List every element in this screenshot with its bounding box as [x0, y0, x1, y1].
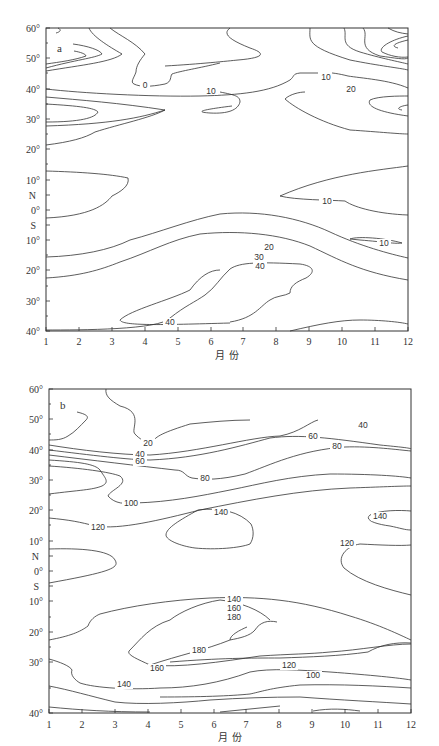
x-tick-label: 6 — [212, 719, 217, 730]
contour-label: 100 — [124, 498, 138, 508]
y-tick-label: 10° — [29, 536, 43, 547]
y-tick-label: N — [32, 551, 39, 562]
contour-label: 120 — [91, 522, 105, 532]
x-tick-label: 9 — [307, 336, 312, 347]
y-tick-label: 20° — [26, 144, 40, 155]
y-tick-label: 10° — [26, 175, 40, 186]
panel-label-a: a — [57, 42, 62, 54]
contour-label: 60 — [308, 431, 318, 441]
contour-labels-b: 20 40 60 40 60 80 80 100 120 140 140 120… — [89, 420, 389, 689]
contour-label: 140 — [373, 511, 387, 521]
y-tick-label: 10° — [29, 596, 43, 607]
contour-label: 20 — [143, 438, 153, 448]
y-tick-label: 40° — [26, 326, 40, 337]
x-tick-label: 11 — [373, 719, 383, 730]
x-tick-label: 8 — [274, 336, 279, 347]
panel-a: a 60° 50° 40° 30° 20° 10° — [26, 23, 413, 361]
x-axis-a: 1 2 3 4 5 6 7 8 9 10 11 12 月 份 — [44, 327, 414, 361]
contour-label: 180 — [192, 645, 206, 655]
contour-label: 10 — [379, 238, 389, 248]
x-tick-label: 5 — [179, 719, 184, 730]
y-tick-label: 60° — [26, 23, 40, 34]
contour-lines-b — [49, 389, 411, 712]
x-tick-label: 3 — [110, 336, 115, 347]
x-tick-label: 10 — [337, 336, 347, 347]
contour-label: 40 — [358, 420, 368, 430]
y-tick-label: 40° — [26, 84, 40, 95]
y-tick-label: 60° — [29, 384, 43, 395]
y-tick-label: 20° — [29, 505, 43, 516]
x-tick-label: 9 — [310, 719, 315, 730]
contour-label: 80 — [332, 441, 342, 451]
figure: a 60° 50° 40° 30° 20° 10° — [0, 0, 439, 746]
y-tick-label: 20° — [26, 265, 40, 276]
contour-label: 0 — [143, 80, 148, 90]
contour-label: 40 — [165, 317, 175, 327]
y-tick-label: 30° — [29, 475, 43, 486]
contour-label: 40 — [255, 261, 265, 271]
x-axis-title: 月 份 — [215, 350, 238, 361]
contour-labels-a: 0 10 10 20 10 10 20 30 40 40 — [140, 72, 391, 327]
x-tick-label: 5 — [176, 336, 181, 347]
y-tick-label: 20° — [29, 627, 43, 638]
contour-label: 10 — [206, 86, 216, 96]
x-tick-label: 1 — [47, 719, 52, 730]
panel-b: b 60° 50° 40° 30° 20° 10° N — [29, 384, 416, 743]
y-tick-label: 40° — [29, 445, 43, 456]
x-tick-label: 10 — [340, 719, 350, 730]
contour-label: 140 — [214, 507, 228, 517]
contour-lines-a — [46, 28, 408, 331]
x-tick-label: 1 — [44, 336, 49, 347]
y-tick-label: 30° — [29, 657, 43, 668]
y-tick-label: 0° — [31, 205, 40, 216]
contour-label: 80 — [200, 473, 210, 483]
x-tick-label: 4 — [146, 719, 151, 730]
y-tick-label: S — [30, 220, 36, 231]
plot-frame-a — [46, 28, 408, 331]
y-tick-label: 50° — [29, 414, 43, 425]
contour-label: 140 — [117, 679, 131, 689]
contour-label: 180 — [227, 612, 241, 622]
contour-label: 120 — [282, 660, 296, 670]
contour-label: 20 — [264, 242, 274, 252]
x-axis-title: 月 份 — [218, 732, 241, 743]
y-tick-label: 40° — [29, 708, 43, 719]
y-tick-label: 0° — [34, 566, 43, 577]
y-tick-label: N — [29, 190, 36, 201]
y-tick-label: 30° — [26, 114, 40, 125]
contour-label: 20 — [346, 84, 356, 94]
y-tick-label: 10° — [26, 235, 40, 246]
contour-label: 10 — [321, 72, 331, 82]
x-tick-label: 4 — [143, 336, 148, 347]
x-tick-label: 11 — [370, 336, 380, 347]
contour-label: 60 — [135, 456, 145, 466]
y-tick-label: 30° — [26, 296, 40, 307]
x-axis-b: 1 2 3 4 5 6 7 8 9 10 11 12 月 份 — [47, 709, 417, 743]
y-tick-label: 50° — [26, 53, 40, 64]
contour-label: 120 — [340, 538, 354, 548]
x-tick-label: 6 — [209, 336, 214, 347]
x-tick-label: 3 — [113, 719, 118, 730]
plot-frame-b — [49, 389, 411, 713]
x-tick-label: 2 — [80, 719, 85, 730]
contour-label: 100 — [306, 670, 320, 680]
x-tick-label: 2 — [77, 336, 82, 347]
contour-label: 10 — [322, 196, 332, 206]
panel-label-b: b — [60, 399, 66, 411]
x-tick-label: 12 — [406, 719, 416, 730]
x-tick-label: 8 — [277, 719, 282, 730]
x-tick-label: 7 — [244, 719, 249, 730]
x-tick-label: 7 — [241, 336, 246, 347]
y-tick-label: S — [33, 581, 39, 592]
contour-label: 160 — [150, 663, 164, 673]
x-tick-label: 12 — [403, 336, 413, 347]
